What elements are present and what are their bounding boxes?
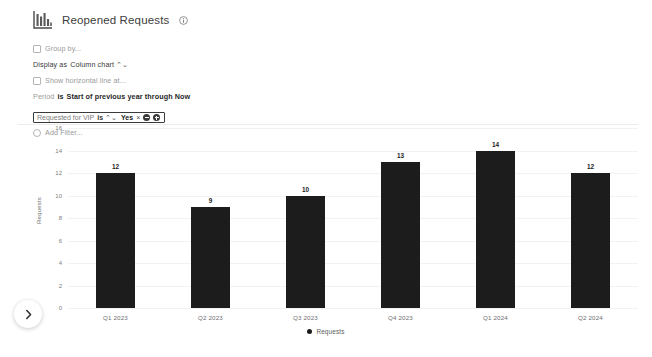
bar-chart-icon xyxy=(32,10,53,30)
y-axis-tick-label: 0 xyxy=(48,305,62,311)
group-by-row[interactable]: Group by... xyxy=(33,42,363,55)
checkbox-icon[interactable] xyxy=(33,45,41,53)
chart-bar[interactable] xyxy=(381,162,420,308)
x-axis-tick-label: Q2 2024 xyxy=(571,314,610,321)
info-circle-icon[interactable] xyxy=(179,16,188,25)
next-page-button[interactable] xyxy=(14,300,42,328)
chart-bar-group[interactable]: 12Q2 2024 xyxy=(571,128,610,308)
chart-bar-group[interactable]: 12Q1 2023 xyxy=(96,128,135,308)
legend-label[interactable]: Requests xyxy=(316,328,344,335)
x-axis-tick-label: Q4 2023 xyxy=(381,314,420,321)
y-axis-tick-label: 6 xyxy=(48,238,62,244)
y-axis-tick-label: 14 xyxy=(48,148,62,154)
horizontal-line-row[interactable]: Show horizontal line at... xyxy=(33,74,363,87)
x-axis-tick-label: Q1 2023 xyxy=(96,314,135,321)
chart-bar[interactable] xyxy=(96,173,135,308)
widget-header: Reopened Requests xyxy=(32,8,188,32)
bar-value-label: 13 xyxy=(381,152,420,159)
bar-value-label: 9 xyxy=(191,197,230,204)
display-as-value[interactable]: Column chart xyxy=(70,60,114,69)
close-icon[interactable]: × xyxy=(136,114,140,121)
legend-marker-icon xyxy=(307,329,312,334)
bar-value-label: 12 xyxy=(571,163,610,170)
chart-controls: Group by... Display as Column chart ⌃⌄ S… xyxy=(33,42,363,142)
chart-bar[interactable] xyxy=(476,151,515,309)
x-axis-tick-label: Q3 2023 xyxy=(286,314,325,321)
period-field: Period xyxy=(33,92,54,101)
filter-value[interactable]: Yes xyxy=(121,114,133,121)
group-by-label: Group by... xyxy=(45,44,81,53)
horizontal-line-label: Show horizontal line at... xyxy=(45,76,126,85)
y-axis-title: Requests xyxy=(36,197,42,224)
chart-bar-group[interactable]: 14Q1 2024 xyxy=(476,128,515,308)
chevron-updown-icon[interactable]: ⌃⌄ xyxy=(116,61,128,68)
chevron-right-icon xyxy=(23,309,34,320)
period-value[interactable]: Start of previous year through Now xyxy=(67,92,191,101)
minus-circle-icon[interactable] xyxy=(143,114,150,121)
period-row[interactable]: Period is Start of previous year through… xyxy=(33,90,363,103)
page-title: Reopened Requests xyxy=(62,14,169,26)
chart-plot: 12Q1 20239Q2 202310Q3 202313Q4 202314Q1 … xyxy=(68,128,638,308)
plus-circle-icon[interactable] xyxy=(153,114,160,121)
display-as-row[interactable]: Display as Column chart ⌃⌄ xyxy=(33,58,363,71)
y-axis-tick-label: 10 xyxy=(48,193,62,199)
chart-bar[interactable] xyxy=(286,196,325,309)
period-operator: is xyxy=(57,92,63,101)
bar-value-label: 10 xyxy=(286,186,325,193)
chart-legend: Requests xyxy=(0,328,652,335)
chart-bar[interactable] xyxy=(571,173,610,308)
chart-area: Requests 1614121086420 12Q1 20239Q2 2023… xyxy=(0,128,652,328)
gridline xyxy=(68,308,638,309)
header-divider xyxy=(18,124,638,125)
y-axis-tick-label: 2 xyxy=(48,283,62,289)
chevron-updown-icon[interactable]: ⌃⌄ xyxy=(105,114,117,121)
y-axis-tick-label: 4 xyxy=(48,260,62,266)
y-axis-tick-label: 8 xyxy=(48,215,62,221)
chart-bar-group[interactable]: 9Q2 2023 xyxy=(191,128,230,308)
filter-chip-requested-for-vip[interactable]: Requested for VIP is ⌃⌄ Yes × xyxy=(33,112,165,123)
chart-bar[interactable] xyxy=(191,207,230,308)
filter-operator[interactable]: is xyxy=(97,114,103,121)
display-as-prefix: Display as xyxy=(33,60,67,69)
y-axis-tick-label: 16 xyxy=(48,125,62,131)
x-axis-tick-label: Q2 2023 xyxy=(191,314,230,321)
bar-value-label: 12 xyxy=(96,163,135,170)
x-axis-tick-label: Q1 2024 xyxy=(476,314,515,321)
checkbox-icon[interactable] xyxy=(33,77,41,85)
filter-field-label: Requested for VIP xyxy=(37,114,94,121)
y-axis-tick-label: 12 xyxy=(48,170,62,176)
chart-bar-group[interactable]: 10Q3 2023 xyxy=(286,128,325,308)
chart-bar-group[interactable]: 13Q4 2023 xyxy=(381,128,420,308)
bar-value-label: 14 xyxy=(476,141,515,148)
